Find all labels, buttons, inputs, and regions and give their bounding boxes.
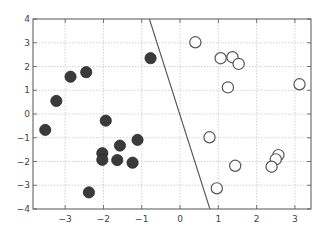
x-tick-label: 3 [292,214,298,224]
filled-data-point [100,115,111,126]
y-tick-label: 2 [24,62,30,72]
filled-data-point [112,154,123,165]
y-tick-label: 1 [24,85,30,95]
open-data-point [204,132,215,143]
y-tick-label: 0 [24,109,30,119]
scatter-chart: −3−2−10123 −4−3−2−101234 [0,0,328,238]
y-tick-label: 3 [24,38,30,48]
open-data-point [190,37,201,48]
open-data-point [222,82,233,93]
open-data-point [211,183,222,194]
series-filled-points [40,53,157,198]
open-data-point [215,53,226,64]
open-data-point [266,161,277,172]
filled-data-point [83,187,94,198]
x-tick-label: −3 [59,214,72,224]
filled-data-point [97,154,108,165]
open-data-point [294,79,305,90]
filled-data-point [127,157,138,168]
open-data-point [230,160,241,171]
y-tick-label: 4 [24,14,30,24]
y-tick-label: −1 [17,133,30,143]
filled-data-point [81,67,92,78]
y-tick-label: −4 [17,204,31,214]
x-tick-label: −1 [135,214,148,224]
filled-data-point [114,140,125,151]
filled-data-point [65,71,76,82]
y-tick-label: −3 [17,180,30,190]
filled-data-point [40,124,51,135]
x-tick-label: −2 [97,214,110,224]
filled-data-point [51,95,62,106]
grid [33,19,311,209]
series-open-points [190,37,305,194]
x-tick-label: 2 [254,214,260,224]
open-data-point [233,58,244,69]
x-tick-label: 1 [215,214,221,224]
y-tick-label: −2 [17,157,30,167]
x-tick-label: 0 [177,214,183,224]
filled-data-point [132,134,143,145]
filled-data-point [145,53,156,64]
